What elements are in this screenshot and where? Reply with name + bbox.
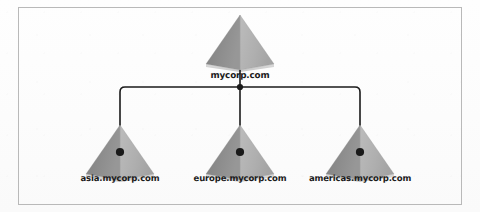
diagram-canvas: mycorp.com asia.mycorp.com europe.mycorp… (0, 0, 480, 212)
root-node-icon[interactable] (206, 15, 274, 72)
child-node-label-americas: americas.mycorp.com (309, 174, 411, 184)
child-node-label-asia: asia.mycorp.com (81, 174, 160, 184)
child-node-label-europe: europe.mycorp.com (194, 174, 287, 184)
endpoint-dot-europe (236, 148, 244, 156)
endpoint-dot-americas (356, 148, 364, 156)
root-node-label: mycorp.com (210, 71, 269, 81)
connector-junction-dot (237, 84, 243, 90)
endpoint-dot-asia (116, 148, 124, 156)
